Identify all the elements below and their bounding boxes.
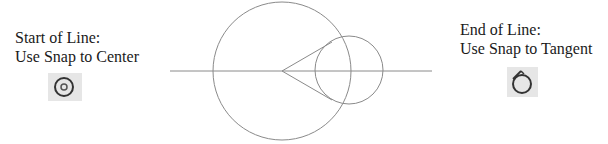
- tangent-construction-diagram: [0, 0, 608, 144]
- lower-tangent-line: [282, 71, 332, 100]
- upper-tangent-line: [282, 42, 332, 71]
